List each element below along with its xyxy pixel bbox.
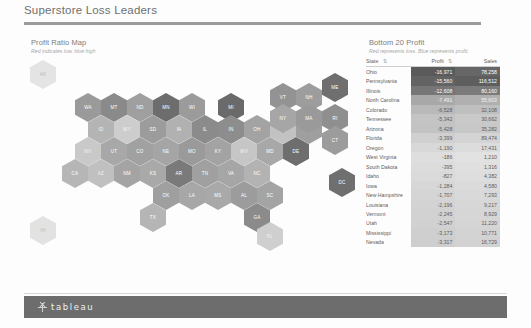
hex-tile-label: ND	[136, 105, 143, 110]
cell-profit: -1,284	[411, 181, 456, 190]
hex-tile-dc[interactable]: DC	[329, 168, 355, 197]
hex-tile-label: AL	[241, 193, 247, 198]
bottom-20-profit-table: State ⇅ Profit ⇅ Sales Ohio-16,97178,258…	[366, 58, 500, 247]
cell-state: Florida	[366, 133, 411, 142]
column-header-profit-label: Profit	[431, 58, 443, 64]
hex-tile-hi[interactable]: HI	[30, 216, 56, 245]
cell-state: Nevada	[366, 238, 411, 247]
hex-tile-label: CO	[136, 149, 143, 154]
hex-tile-label: DC	[338, 180, 345, 185]
hex-tile-label: WI	[189, 105, 195, 110]
table-row[interactable]: West Virginia-1861,210	[366, 152, 500, 161]
hex-tile-label: NE	[163, 149, 170, 154]
hex-tile-label: NY	[280, 116, 287, 121]
cell-profit: -6,528	[411, 105, 456, 114]
hex-tile-label: UT	[111, 149, 118, 154]
table-caption: Bottom 20 Profit Red represents loss. Bl…	[369, 38, 469, 54]
hex-tile-ct[interactable]: CT	[322, 126, 348, 155]
hex-tile-label: MD	[266, 149, 274, 154]
hex-tile-label: WY	[123, 127, 131, 132]
hex-tile-label: ID	[99, 127, 104, 132]
column-header-state-label: State	[366, 58, 378, 64]
profit-ratio-hex-map[interactable]: AKWAMTNDMNWIMIVTNHMEIDWYSDIAILINOHPANJNY…	[24, 56, 354, 266]
hex-tile-label: TN	[202, 171, 209, 176]
cell-state: Pennsylvania	[366, 76, 411, 85]
cell-profit: -5,342	[411, 114, 456, 123]
map-caption: Profit Ratio Map Red indicates low, blue…	[31, 38, 95, 54]
table-row[interactable]: Idaho-8274,382	[366, 171, 500, 180]
cell-profit: -3,399	[411, 133, 456, 142]
hex-tile-label: SC	[267, 193, 274, 198]
table-row[interactable]: Vermont-2,2458,929	[366, 209, 500, 218]
tableau-footer: tableau	[24, 296, 507, 318]
hex-tile-label: ME	[331, 85, 338, 90]
cell-sales: 35,282	[455, 124, 500, 133]
table-row[interactable]: South Dakota-3951,316	[366, 162, 500, 171]
cell-state: South Dakota	[366, 162, 411, 171]
hex-tile-label: NV	[85, 149, 92, 154]
table-row[interactable]: Pennsylvania-15,560116,512	[366, 76, 500, 85]
hex-tile-label: AZ	[98, 171, 104, 176]
column-header-state[interactable]: State ⇅	[366, 58, 411, 67]
cell-sales: 89,474	[455, 133, 500, 142]
table-row[interactable]: Oregon-1,19017,431	[366, 143, 500, 152]
hex-tile-label: GA	[253, 215, 260, 220]
hex-tile-label: IN	[229, 127, 234, 132]
cell-profit: -827	[411, 171, 456, 180]
hex-tile-label: WA	[84, 105, 92, 110]
column-header-profit[interactable]: Profit ⇅	[411, 58, 456, 67]
hex-tile-label: MT	[110, 105, 117, 110]
table-row[interactable]: North Carolina-7,49155,603	[366, 95, 500, 104]
cell-state: Tennessee	[366, 114, 411, 123]
cell-state: North Carolina	[366, 95, 411, 104]
map-subtitle: Red indicates low, blue high	[31, 48, 95, 54]
cell-sales: 10,771	[455, 228, 500, 237]
table-row[interactable]: Colorado-6,52832,108	[366, 105, 500, 114]
hex-tile-label: WV	[240, 149, 248, 154]
sort-ascending-icon[interactable]: ⇅	[448, 58, 452, 64]
cell-state: Louisiana	[366, 200, 411, 209]
table-row[interactable]: Ohio-16,97178,258	[366, 67, 500, 77]
hex-tile-label: KS	[150, 171, 157, 176]
hex-tile-label: TX	[150, 215, 156, 220]
cell-sales: 4,382	[455, 171, 500, 180]
table-title: Bottom 20 Profit	[369, 38, 469, 47]
hex-tile-ak[interactable]: AK	[30, 60, 56, 89]
table-row[interactable]: Tennessee-5,34230,662	[366, 114, 500, 123]
table-row[interactable]: Nevada-3,31716,729	[366, 238, 500, 247]
table-row[interactable]: Iowa-1,2844,580	[366, 181, 500, 190]
hex-tile-label: MN	[162, 105, 170, 110]
cell-profit: -186	[411, 152, 456, 161]
cell-state: Vermont	[366, 209, 411, 218]
hex-tile-label: OK	[162, 193, 169, 198]
cell-state: Arizona	[366, 124, 411, 133]
cell-sales: 116,512	[455, 76, 500, 85]
cell-sales: 4,580	[455, 181, 500, 190]
footer-divider	[24, 293, 507, 294]
table-row[interactable]: Louisiana-2,1969,217	[366, 200, 500, 209]
tableau-brand-label: tableau	[51, 302, 94, 312]
cell-profit: -16,971	[411, 67, 456, 77]
hex-tile-label: HI	[41, 228, 46, 233]
cell-profit: -3,173	[411, 228, 456, 237]
cell-profit: -2,196	[411, 200, 456, 209]
cell-sales: 7,293	[455, 190, 500, 199]
sort-ascending-icon[interactable]: ⇅	[383, 58, 387, 64]
table-row[interactable]: Florida-3,39989,474	[366, 133, 500, 142]
cell-profit: -1,190	[411, 143, 456, 152]
page-title: Superstore Loss Leaders	[24, 4, 494, 16]
column-header-sales[interactable]: Sales	[455, 58, 500, 67]
hex-tile-label: MI	[228, 105, 234, 110]
hex-tile-label: NM	[123, 171, 131, 176]
hex-tile-label: FL	[267, 234, 273, 239]
table-row[interactable]: New Hampshire-1,7077,293	[366, 190, 500, 199]
table-row[interactable]: Utah-2,54711,220	[366, 219, 500, 228]
table-row[interactable]: Illinois-12,60880,160	[366, 86, 500, 95]
table-subtitle: Red represents loss. Blue represents pro…	[369, 48, 469, 54]
table-row[interactable]: Arizona-5,42835,282	[366, 124, 500, 133]
table-row[interactable]: Mississippi-3,17310,771	[366, 228, 500, 237]
dashboard-header: Superstore Loss Leaders	[24, 4, 494, 16]
cell-state: Idaho	[366, 171, 411, 180]
hex-tile-label: NH	[305, 95, 312, 100]
hex-tile-me[interactable]: ME	[322, 73, 348, 102]
